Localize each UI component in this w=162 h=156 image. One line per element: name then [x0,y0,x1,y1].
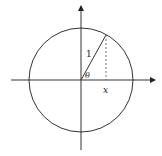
x-projection-label: x [103,85,108,95]
angle-label: θ [85,71,90,80]
unit-circle-diagram: 1 θ x [0,0,162,156]
radius-label: 1 [86,49,92,59]
diagram-canvas: 1 θ x [0,0,162,156]
